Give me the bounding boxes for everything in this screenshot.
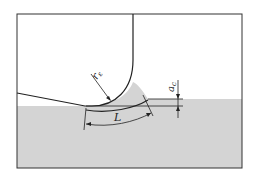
arrow-head (106, 96, 111, 101)
workpiece (17, 82, 242, 168)
depth-label: ac (165, 82, 178, 92)
tool-outline (17, 14, 133, 106)
cutting-diagram: rε L ac (0, 0, 258, 180)
radius-label: rε (89, 68, 105, 82)
arrow-head (176, 94, 180, 99)
length-label: L (113, 111, 121, 124)
